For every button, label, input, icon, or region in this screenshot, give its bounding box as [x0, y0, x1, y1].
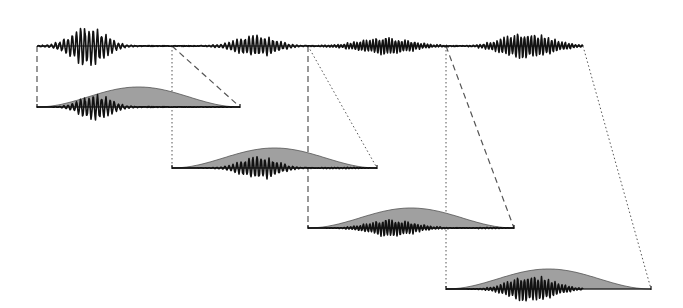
framing-diagram	[0, 0, 683, 308]
frame-2	[172, 148, 377, 179]
frame-4	[446, 269, 651, 301]
frame-2-right-guide	[308, 46, 377, 168]
frame-4-right-guide	[583, 46, 651, 289]
hann-window	[37, 87, 240, 107]
frame-1	[37, 87, 240, 120]
source-signal	[37, 29, 583, 66]
frame-3-right-guide	[446, 46, 514, 228]
frame-3	[308, 208, 514, 236]
windowed-frames	[37, 87, 651, 301]
